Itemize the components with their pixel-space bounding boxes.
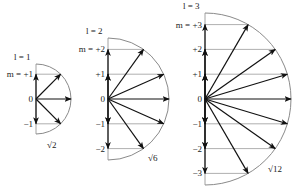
m-tick-label: 0 bbox=[101, 94, 106, 104]
diagram-l2: l = 2m = +2+10−1−2√6 bbox=[79, 26, 169, 163]
m-tick-label: −2 bbox=[95, 144, 105, 154]
m-tick-label: −1 bbox=[95, 119, 105, 129]
m-tick-label: −3 bbox=[192, 168, 202, 178]
diagram-l3: l = 3m = +3+2+10−1−2−3√12 bbox=[176, 1, 291, 185]
magnitude-label: √12 bbox=[268, 164, 282, 174]
magnitude-label: √6 bbox=[148, 153, 158, 163]
m-tick-label: −1 bbox=[23, 119, 33, 129]
l-label: l = 3 bbox=[183, 1, 200, 11]
m-tick-label: +1 bbox=[95, 69, 105, 79]
m-tick-label: 0 bbox=[198, 94, 203, 104]
m-tick-label: −2 bbox=[192, 144, 202, 154]
m-tick-label: −1 bbox=[192, 119, 202, 129]
l-vector-arrow bbox=[36, 99, 61, 124]
l-label: l = 2 bbox=[86, 26, 103, 36]
m-tick-label: m = +2 bbox=[79, 44, 105, 54]
l-vector-arrow bbox=[36, 74, 61, 99]
diagram-l1: l = 1m = +10−1√2 bbox=[7, 52, 71, 150]
magnitude-label: √2 bbox=[47, 140, 56, 150]
m-tick-label: m = +1 bbox=[7, 69, 33, 79]
m-tick-label: m = +3 bbox=[176, 20, 203, 30]
m-tick-label: +1 bbox=[192, 69, 202, 79]
m-tick-label: +2 bbox=[192, 44, 202, 54]
m-tick-label: 0 bbox=[29, 94, 34, 104]
l-label: l = 1 bbox=[14, 52, 31, 62]
angular-momentum-vector-diagram: l = 1m = +10−1√2l = 2m = +2+10−1−2√6l = … bbox=[0, 0, 297, 188]
